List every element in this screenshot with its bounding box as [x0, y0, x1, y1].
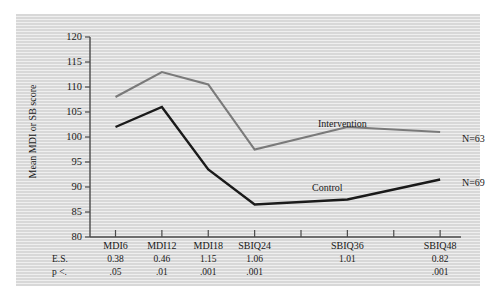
annotation-value-r1-c0: .05	[110, 267, 122, 278]
control-n-label: N=69	[462, 177, 485, 188]
x-category-label-sbiq36: SBIQ36	[331, 240, 364, 251]
control-series-line	[116, 107, 441, 205]
x-category-label-sbiq24: SBIQ24	[238, 240, 271, 251]
y-axis-title: Mean MDI or SB score	[27, 62, 38, 202]
y-tick-label-120: 120	[46, 31, 82, 42]
chart-figure-panel: Mean MDI or SB score 8085909510010511011…	[16, 14, 480, 286]
y-tick-label-85: 85	[46, 206, 82, 217]
annotation-value-r1-c1: .01	[156, 267, 168, 278]
annotation-value-r0-c3: 1.06	[246, 254, 263, 265]
x-category-label-mdi6: MDI6	[103, 240, 127, 251]
annotation-value-r1-c3: .001	[246, 267, 263, 278]
x-axis-ticks	[116, 230, 441, 237]
y-tick-label-100: 100	[46, 131, 82, 142]
x-category-label-mdi12: MDI12	[147, 240, 176, 251]
y-tick-label-115: 115	[46, 56, 82, 67]
intervention-n-label: N=63	[462, 133, 485, 144]
y-tick-label-90: 90	[46, 181, 82, 192]
y-axis-ticks	[85, 37, 90, 237]
intervention-series-label: Intervention	[318, 118, 367, 129]
annotation-value-r1-c5: .001	[432, 267, 449, 278]
x-category-label-sbiq48: SBIQ48	[424, 240, 457, 251]
annotation-row-label-0: E.S.	[52, 254, 68, 265]
y-tick-label-95: 95	[46, 156, 82, 167]
annotation-row-label-1: p <.	[52, 267, 67, 278]
annotation-value-r1-c2: .001	[200, 267, 217, 278]
y-tick-label-105: 105	[46, 106, 82, 117]
x-category-label-mdi18: MDI18	[194, 240, 223, 251]
annotation-value-r0-c4: 1.01	[339, 254, 356, 265]
control-series-label: Control	[312, 182, 343, 193]
y-tick-label-80: 80	[46, 231, 82, 242]
annotation-value-r0-c0: 0.38	[107, 254, 124, 265]
annotation-value-r0-c2: 1.15	[200, 254, 217, 265]
annotation-value-r0-c1: 0.46	[154, 254, 171, 265]
annotation-value-r0-c5: 0.82	[432, 254, 449, 265]
y-tick-label-110: 110	[46, 81, 82, 92]
